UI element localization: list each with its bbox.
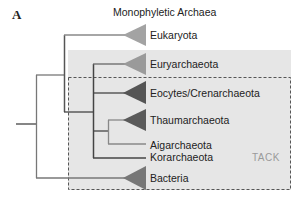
eukaryota-triangle — [123, 24, 146, 46]
taxon-label-korarchaeota: Korarchaeota — [150, 151, 213, 163]
taxon-label-eocytes-crenarchaeota: Eocytes/Crenarchaeota — [150, 87, 260, 99]
taxon-label-eukaryota: Eukaryota — [150, 29, 197, 41]
taxon-label-aigarchaeota: Aigarchaeota — [150, 139, 212, 151]
tack-group-label: TACK — [252, 152, 280, 163]
taxon-label-euryarchaeota: Euryarchaeota — [150, 58, 218, 70]
taxon-label-bacteria: Bacteria — [150, 172, 189, 184]
taxon-label-thaumarchaeota: Thaumarchaeota — [150, 114, 229, 126]
